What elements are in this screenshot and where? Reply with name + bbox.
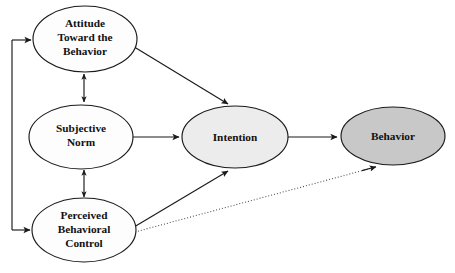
- feedback-rail-group: [12, 40, 31, 230]
- attitude-label-line2: Toward the: [57, 31, 112, 43]
- attitude-label-line1: Attitude: [65, 17, 105, 29]
- caption-strip: [0, 263, 455, 273]
- diagram-canvas: Attitude Toward the Behavior Subjective …: [0, 0, 455, 273]
- edge-attitude-to-intention: [131, 45, 228, 104]
- intention-label: Intention: [213, 131, 258, 143]
- edge-pbc-to-behavior-arrowhead: [362, 167, 376, 171]
- node-attitude-toward-the-behavior[interactable]: Attitude Toward the Behavior: [33, 6, 137, 72]
- subjective-norm-label-line1: Subjective: [56, 122, 106, 134]
- theory-of-planned-behavior-diagram: Attitude Toward the Behavior Subjective …: [0, 0, 455, 273]
- attitude-label-line3: Behavior: [63, 45, 107, 57]
- pbc-label-line3: Control: [65, 237, 102, 249]
- pbc-label-line1: Perceived: [61, 209, 109, 221]
- edge-pbc-to-intention: [134, 171, 228, 227]
- node-subjective-norm[interactable]: Subjective Norm: [29, 105, 133, 169]
- behavior-label: Behavior: [371, 130, 415, 142]
- pbc-label-line2: Behavioral: [58, 223, 111, 235]
- node-intention[interactable]: Intention: [182, 106, 288, 168]
- node-perceived-behavioral-control[interactable]: Perceived Behavioral Control: [32, 198, 136, 262]
- edge-pbc-to-behavior-dotted: [135, 168, 372, 232]
- node-behavior[interactable]: Behavior: [341, 107, 445, 165]
- subjective-norm-label-line2: Norm: [67, 136, 96, 148]
